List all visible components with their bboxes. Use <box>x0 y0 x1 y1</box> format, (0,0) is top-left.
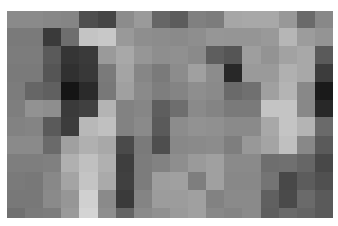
mosaic-cell <box>261 190 279 208</box>
mosaic-cell <box>25 100 43 117</box>
mosaic-cell <box>43 28 61 46</box>
mosaic-cell <box>242 136 260 154</box>
mosaic-cell <box>297 154 315 172</box>
mosaic-cell <box>224 208 242 218</box>
mosaic-cell <box>79 208 97 218</box>
mosaic-cell <box>25 46 43 64</box>
mosaic-cell <box>279 154 297 172</box>
mosaic-cell <box>188 190 206 208</box>
mosaic-cell <box>79 190 97 208</box>
mosaic-cell <box>43 154 61 172</box>
mosaic-cell <box>43 82 61 100</box>
mosaic-cell <box>297 190 315 208</box>
mosaic-cell <box>188 117 206 136</box>
mosaic-cell <box>279 117 297 136</box>
mosaic-cell <box>25 136 43 154</box>
mosaic-cell <box>98 100 116 117</box>
mosaic-cell <box>7 28 25 46</box>
mosaic-cell <box>188 154 206 172</box>
mosaic-cell <box>261 46 279 64</box>
mosaic-cell <box>7 154 25 172</box>
mosaic-cell <box>170 172 188 190</box>
mosaic-cell <box>170 136 188 154</box>
mosaic-cell <box>170 11 188 28</box>
mosaic-cell <box>25 172 43 190</box>
mosaic-cell <box>206 154 224 172</box>
mosaic-cell <box>261 154 279 172</box>
mosaic-cell <box>116 154 134 172</box>
mosaic-cell <box>116 64 134 82</box>
mosaic-cell <box>25 11 43 28</box>
mosaic-cell <box>25 82 43 100</box>
mosaic-cell <box>279 100 297 117</box>
mosaic-cell <box>98 11 116 28</box>
mosaic-cell <box>224 28 242 46</box>
mosaic-cell <box>98 64 116 82</box>
mosaic-cell <box>152 100 170 117</box>
mosaic-cell <box>206 208 224 218</box>
mosaic-cell <box>116 190 134 208</box>
mosaic-cell <box>7 190 25 208</box>
mosaic-cell <box>279 136 297 154</box>
mosaic-cell <box>261 136 279 154</box>
mosaic-cell <box>152 154 170 172</box>
mosaic-cell <box>315 136 333 154</box>
mosaic-cell <box>170 190 188 208</box>
mosaic-cell <box>79 154 97 172</box>
mosaic-cell <box>43 100 61 117</box>
mosaic-cell <box>61 28 79 46</box>
mosaic-cell <box>261 100 279 117</box>
mosaic-cell <box>206 136 224 154</box>
mosaic-cell <box>134 190 152 208</box>
mosaic-cell <box>61 11 79 28</box>
mosaic-cell <box>134 208 152 218</box>
mosaic-cell <box>116 172 134 190</box>
mosaic-cell <box>261 28 279 46</box>
mosaic-cell <box>261 64 279 82</box>
mosaic-cell <box>25 154 43 172</box>
mosaic-cell <box>152 64 170 82</box>
mosaic-cell <box>188 28 206 46</box>
mosaic-cell <box>315 46 333 64</box>
mosaic-cell <box>297 136 315 154</box>
mosaic-cell <box>297 82 315 100</box>
mosaic-cell <box>297 46 315 64</box>
mosaic-cell <box>152 190 170 208</box>
mosaic-cell <box>98 190 116 208</box>
mosaic-cell <box>224 154 242 172</box>
mosaic-cell <box>279 82 297 100</box>
mosaic-cell <box>116 100 134 117</box>
mosaic-cell <box>43 11 61 28</box>
mosaic-cell <box>152 11 170 28</box>
mosaic-cell <box>224 100 242 117</box>
mosaic-cell <box>242 46 260 64</box>
mosaic-cell <box>279 172 297 190</box>
mosaic-cell <box>7 11 25 28</box>
mosaic-cell <box>315 154 333 172</box>
mosaic-cell <box>315 28 333 46</box>
mosaic-cell <box>79 11 97 28</box>
mosaic-cell <box>224 117 242 136</box>
mosaic-cell <box>79 46 97 64</box>
mosaic-cell <box>134 100 152 117</box>
mosaic-cell <box>7 208 25 218</box>
mosaic-cell <box>61 154 79 172</box>
mosaic-cell <box>315 11 333 28</box>
mosaic-cell <box>279 208 297 218</box>
mosaic-cell <box>297 208 315 218</box>
mosaic-cell <box>297 100 315 117</box>
mosaic-cell <box>116 46 134 64</box>
mosaic-cell <box>79 117 97 136</box>
mosaic-cell <box>224 172 242 190</box>
mosaic-cell <box>188 136 206 154</box>
mosaic-cell <box>170 64 188 82</box>
mosaic-cell <box>206 46 224 64</box>
mosaic-cell <box>170 100 188 117</box>
mosaic-cell <box>43 208 61 218</box>
mosaic-cell <box>315 82 333 100</box>
mosaic-cell <box>61 64 79 82</box>
mosaic-cell <box>43 190 61 208</box>
pixelated-grayscale-image <box>7 11 333 218</box>
mosaic-cell <box>116 208 134 218</box>
mosaic-cell <box>43 117 61 136</box>
